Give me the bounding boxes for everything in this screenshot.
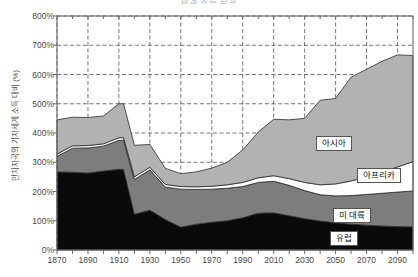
series-label-americas: 미 대륙 (333, 208, 371, 223)
series-label-europe: 유럽 (330, 231, 358, 246)
stacked-area-chart: 세계 소득 분포 만지자곡의 기자세계 소득 대비 (%) 800%700%60… (0, 0, 418, 277)
series-label-africa: 아프리카 (357, 168, 401, 183)
series-label-asia: 아시아 (316, 136, 352, 151)
